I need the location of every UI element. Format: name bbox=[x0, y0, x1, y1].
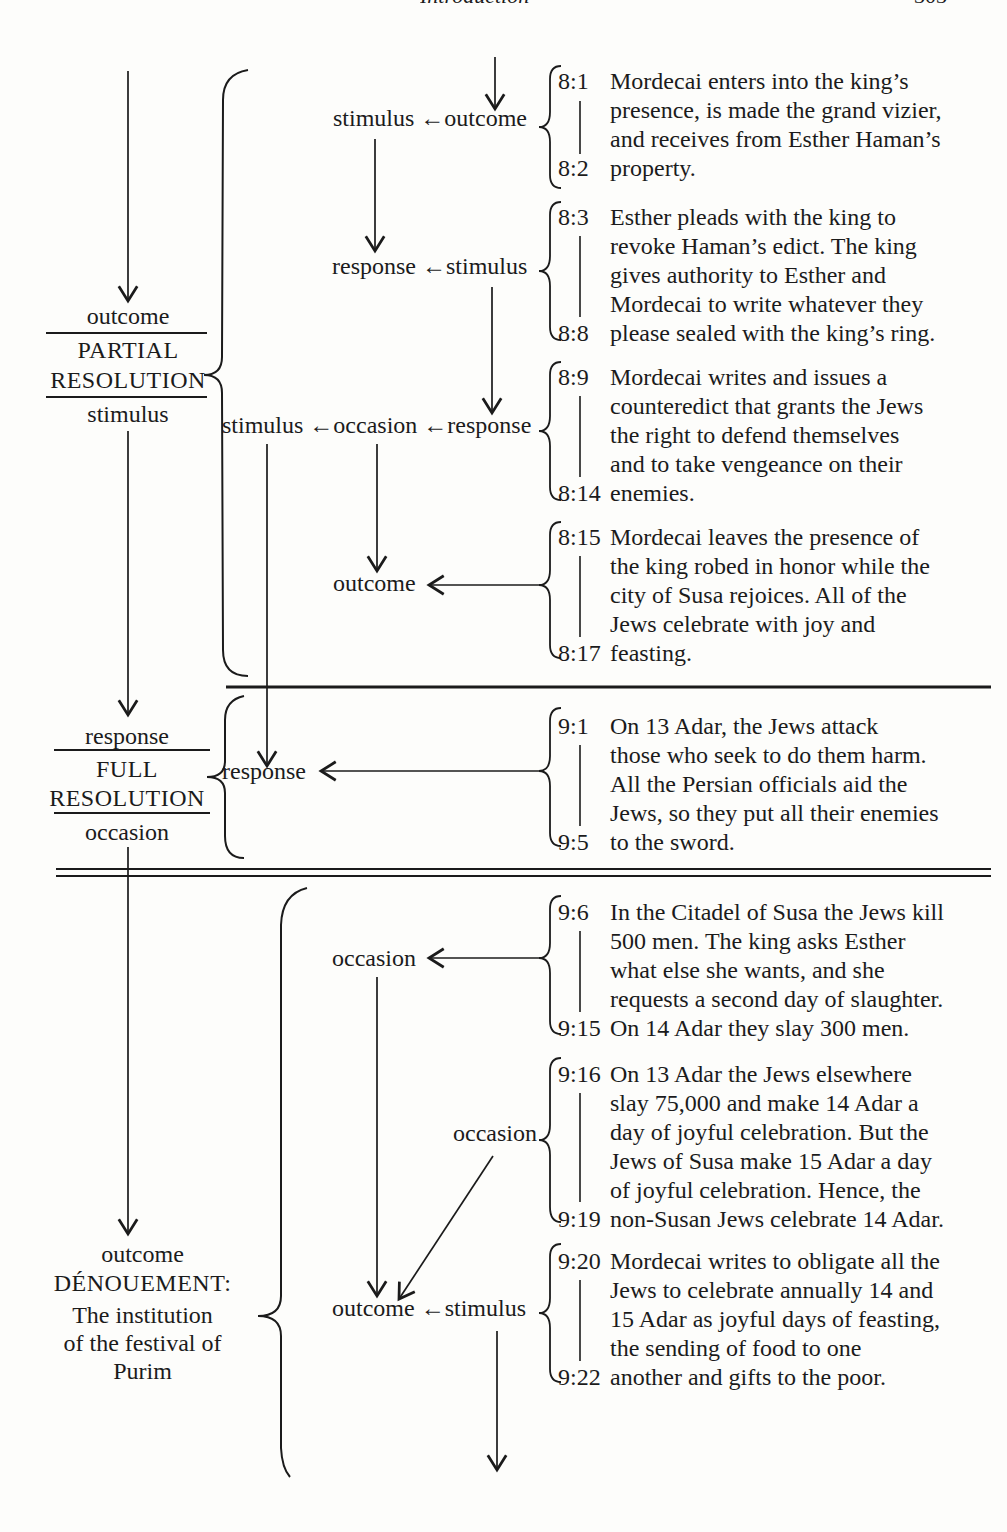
verse-block-text-9-1: On 13 Adar, the Jews attack those who se… bbox=[610, 712, 939, 857]
full-post-label: occasion bbox=[32, 818, 222, 846]
flow-label-row7-occasion: occasion bbox=[453, 1119, 537, 1147]
verse-end-label: 9:19 bbox=[558, 1205, 601, 1234]
flow-label-row2-response-stimulus: response ←stimulus bbox=[332, 252, 527, 280]
verse-block-text-9-6: In the Citadel of Susa the Jews kill 500… bbox=[610, 898, 944, 1043]
denouement-subtitle-line2: of the festival of bbox=[30, 1329, 255, 1357]
brace-denouement-section bbox=[258, 888, 307, 1477]
running-header-title: Introduction bbox=[420, 0, 529, 7]
verse-end-label: 9:5 bbox=[558, 828, 589, 857]
partial-post-label: stimulus bbox=[30, 400, 226, 428]
verse-end-label: 8:8 bbox=[558, 319, 589, 348]
verse-start-label: 9:16 bbox=[558, 1060, 601, 1089]
verse-start-label: 8:3 bbox=[558, 203, 589, 232]
full-title-line2: RESOLUTION bbox=[32, 784, 222, 812]
denouement-title: DÉNOUEMENT: bbox=[30, 1269, 255, 1297]
page-number: 303 bbox=[914, 0, 947, 6]
verse-start-label: 9:20 bbox=[558, 1247, 601, 1276]
verse-block-text-8-15: Mordecai leaves the presence of the king… bbox=[610, 523, 930, 668]
verse-block-text-8-1: Mordecai enters into the king’s presence… bbox=[610, 67, 942, 183]
denouement-pre-label: outcome bbox=[30, 1240, 255, 1268]
verse-end-label: 8:14 bbox=[558, 479, 601, 508]
denouement-subtitle-line3: Purim bbox=[30, 1357, 255, 1385]
arrow-occasion7-to-outcome8 bbox=[399, 1156, 493, 1299]
book-page: Introduction 303 bbox=[0, 0, 1007, 1532]
partial-title-line1: PARTIAL bbox=[30, 336, 226, 364]
verse-end-label: 8:2 bbox=[558, 154, 589, 183]
verse-start-label: 9:6 bbox=[558, 898, 589, 927]
verse-start-label: 9:1 bbox=[558, 712, 589, 741]
flow-label-row8-outcome-stimulus: outcome ←stimulus bbox=[332, 1294, 526, 1322]
verse-start-label: 8:9 bbox=[558, 363, 589, 392]
verse-block-text-8-9: Mordecai writes and issues a counteredic… bbox=[610, 363, 923, 508]
full-title-line1: FULL bbox=[32, 755, 222, 783]
verse-end-label: 9:22 bbox=[558, 1363, 601, 1392]
running-header-crop: Introduction bbox=[420, 0, 590, 7]
verse-start-label: 8:1 bbox=[558, 67, 589, 96]
partial-title-line2: RESOLUTION bbox=[30, 366, 226, 394]
flow-label-row1-stimulus-outcome: stimulus ←outcome bbox=[333, 104, 527, 132]
verse-end-label: 8:17 bbox=[558, 639, 601, 668]
flow-label-row6-occasion: occasion bbox=[332, 944, 416, 972]
verse-block-text-9-16: On 13 Adar the Jews elsewhere slay 75,00… bbox=[610, 1060, 944, 1234]
partial-pre-label: outcome bbox=[30, 302, 226, 330]
verse-block-text-8-3: Esther pleads with the king to revoke Ha… bbox=[610, 203, 935, 348]
page-number-crop: 303 bbox=[900, 0, 960, 6]
verse-end-label: 9:15 bbox=[558, 1014, 601, 1043]
full-pre-label: response bbox=[32, 722, 222, 750]
denouement-subtitle-line1: The institution bbox=[30, 1301, 255, 1329]
verse-start-label: 8:15 bbox=[558, 523, 601, 552]
flow-label-row4-outcome: outcome bbox=[333, 569, 416, 597]
verse-block-text-9-20: Mordecai writes to obligate all the Jews… bbox=[610, 1247, 940, 1392]
flow-label-row3-stimulus-occasion-response: stimulus ←occasion ←response bbox=[222, 411, 531, 439]
flow-label-row5-response: response bbox=[222, 757, 306, 785]
